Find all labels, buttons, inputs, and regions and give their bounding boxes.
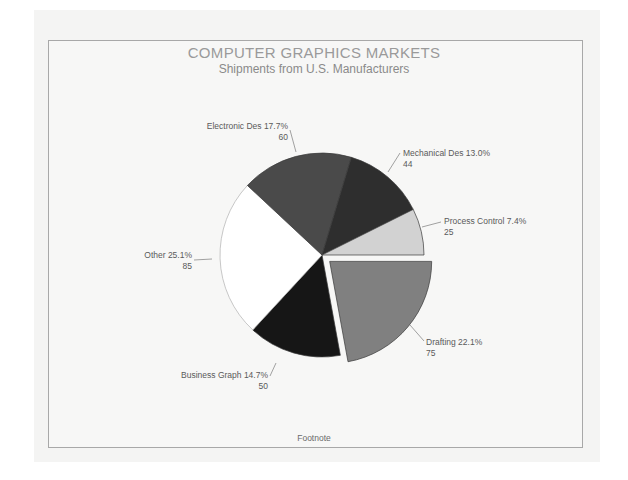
leader-line-other (194, 259, 212, 260)
leader-line-mechanical (388, 153, 400, 172)
label-business-name: Business Graph 14.7% (181, 370, 268, 380)
label-process-name: Process Control 7.4% (444, 216, 526, 226)
footnote: Footnote (0, 433, 628, 443)
label-other-name: Other 25.1% (144, 250, 192, 260)
label-other: Other 25.1% 85 (110, 250, 192, 272)
label-mechanical-name: Mechanical Des 13.0% (403, 148, 490, 158)
label-drafting-value: 75 (426, 348, 482, 359)
leader-line-drafting (410, 325, 424, 341)
label-mechanical: Mechanical Des 13.0% 44 (403, 148, 490, 170)
label-mechanical-value: 44 (403, 159, 490, 170)
label-electronic: Electronic Des 17.7% 60 (160, 121, 288, 143)
pie-slices (220, 153, 432, 362)
label-business-graph: Business Graph 14.7% 50 (150, 370, 268, 392)
label-process-control: Process Control 7.4% 25 (444, 216, 526, 238)
label-other-value: 85 (110, 261, 192, 272)
label-drafting-name: Drafting 22.1% (426, 337, 482, 347)
label-process-value: 25 (444, 227, 526, 238)
label-electronic-name: Electronic Des 17.7% (207, 121, 288, 131)
leader-line-process (422, 222, 441, 227)
pie-chart (0, 0, 628, 480)
label-drafting: Drafting 22.1% 75 (426, 337, 482, 359)
label-electronic-value: 60 (160, 132, 288, 143)
leader-line-electronic (290, 130, 296, 152)
label-business-value: 50 (150, 381, 268, 392)
pie-slice-drafting (330, 261, 432, 361)
leader-line-business (270, 363, 276, 376)
